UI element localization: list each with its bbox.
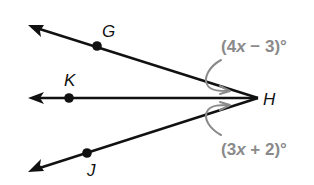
angle-diagram: G K J H (4x − 3)° (3x + 2)° xyxy=(0,0,314,185)
point-g xyxy=(92,41,102,51)
ray-hg: G xyxy=(28,22,258,98)
label-g: G xyxy=(102,22,115,41)
ray-hj-arrowhead-icon xyxy=(28,159,44,172)
label-k: K xyxy=(64,71,76,90)
point-k xyxy=(64,93,74,103)
ray-hj: J xyxy=(28,98,258,180)
angle-khj-measure: (3x + 2)° xyxy=(221,140,287,159)
callout-angle-ghk xyxy=(206,60,230,94)
ray-hg-arrowhead-icon xyxy=(28,25,44,37)
callout-angle-khj xyxy=(206,102,230,135)
label-h: H xyxy=(263,90,276,109)
label-j: J xyxy=(86,161,96,180)
angle-ghk-measure: (4x − 3)° xyxy=(221,37,287,56)
point-j xyxy=(82,148,92,158)
